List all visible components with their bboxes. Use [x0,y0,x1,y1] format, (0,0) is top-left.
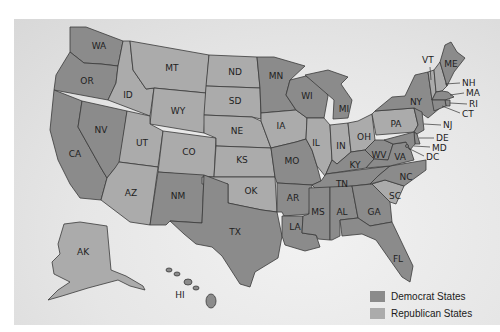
label-wa: WA [92,41,107,51]
label-wi: WI [301,91,313,101]
label-ms: MS [311,207,325,217]
legend-item-republican: Republican States [370,305,472,322]
label-mo: MO [285,156,300,166]
label-oh: OH [357,132,371,142]
label-nj: NJ [443,120,452,130]
state-ak[interactable] [48,222,145,300]
legend-swatch-republican [370,308,385,319]
label-fl: FL [393,254,403,264]
label-id: ID [123,90,133,100]
label-hi: HI [175,290,184,300]
label-ar: AR [287,193,299,203]
state-hi[interactable] [166,268,216,308]
leader-ct [442,106,460,113]
label-sd: SD [229,96,242,106]
label-az: AZ [125,188,137,198]
label-ne: NE [231,126,244,136]
label-ia: IA [277,121,287,131]
label-nh: NH [462,78,476,88]
state-ct[interactable] [432,100,446,111]
label-ut: UT [136,138,149,148]
label-ct: CT [462,109,474,119]
label-sc: SC [389,191,401,201]
label-ok: OK [245,186,259,196]
label-al: AL [336,207,347,217]
label-me: ME [444,59,458,69]
label-nm: NM [171,191,186,201]
leader-md [414,146,430,147]
label-wv: WV [371,150,387,160]
label-mn: MN [269,71,284,81]
legend-label-republican: Republican States [391,308,472,319]
label-ks: KS [236,155,248,165]
label-de: DE [436,133,449,143]
label-ny: NY [410,97,423,107]
label-or: OR [80,76,93,86]
legend: Democrat States Republican States [370,288,472,322]
label-pa: PA [390,119,402,129]
state-dc[interactable] [406,145,409,148]
label-la: LA [289,222,301,232]
label-mi: MI [339,104,349,114]
label-co: CO [182,147,195,157]
label-ky: KY [349,160,361,170]
label-ma: MA [466,88,481,98]
label-ak: AK [77,247,90,257]
label-wy: WY [171,106,186,116]
leader-ma [450,93,464,95]
legend-swatch-democrat [370,291,385,302]
leader-ri [450,103,467,104]
label-nd: ND [228,67,242,77]
label-mt: MT [165,63,179,73]
leader-nj [424,124,441,125]
label-ga: GA [367,207,381,217]
label-tx: TX [228,227,241,237]
label-nv: NV [95,125,109,135]
label-va: VA [394,152,407,162]
us-map: WA OR CA NV ID MT WY UT CO AZ NM ND SD N… [0,0,500,332]
label-vt: VT [422,55,434,65]
label-dc: DC [426,152,439,162]
state-fl[interactable] [340,218,413,282]
label-in: IN [336,141,345,151]
label-nc: NC [399,172,412,182]
label-tn: TN [335,179,348,189]
label-ca: CA [69,149,82,159]
legend-item-democrat: Democrat States [370,288,472,305]
legend-label-democrat: Democrat States [391,291,465,302]
label-ri: RI [469,99,478,109]
label-il: IL [312,138,320,148]
